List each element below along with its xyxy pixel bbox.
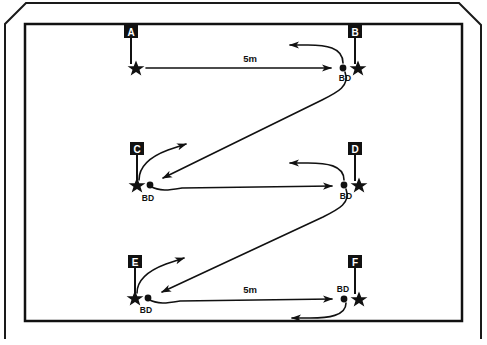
- station-b-letter: B: [351, 27, 358, 38]
- station-d-letter: D: [351, 144, 358, 155]
- station-b-ball-dispenser-dot: [340, 65, 347, 72]
- station-e-ball-dispenser-dot: [145, 295, 152, 302]
- station-c-ball-dispenser-dot: [147, 182, 154, 189]
- station-c-letter: C: [133, 144, 140, 155]
- field-canvas: A B BD C BD D BD E BD: [0, 0, 487, 345]
- station-f-bd-label: BD: [337, 284, 349, 294]
- station-e-bd-label: BD: [140, 305, 152, 315]
- distance-label-ef: 5m: [243, 284, 257, 295]
- station-a-letter: A: [127, 27, 134, 38]
- distance-label-ab: 5m: [243, 53, 257, 64]
- station-c-bd-label: BD: [142, 193, 154, 203]
- station-f-letter: F: [352, 257, 358, 268]
- station-d-bd-label: BD: [340, 191, 352, 201]
- station-f-ball-dispenser-dot: [341, 296, 348, 303]
- station-b-bd-label: BD: [339, 73, 351, 83]
- station-d-ball-dispenser-dot: [341, 182, 348, 189]
- drill-diagram: A B BD C BD D BD E BD: [0, 0, 487, 345]
- station-e-letter: E: [132, 257, 139, 268]
